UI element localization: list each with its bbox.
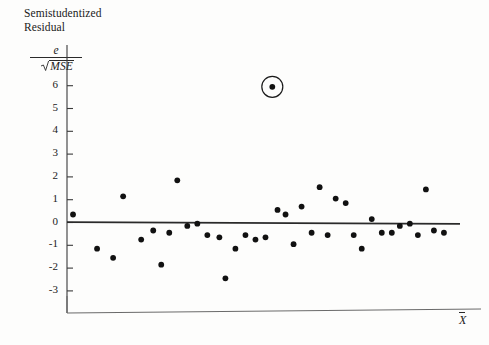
scatter-point <box>351 232 357 238</box>
scatter-point <box>317 184 323 190</box>
y-tick-label: 2 <box>36 169 58 181</box>
scatter-point <box>299 204 305 210</box>
scatter-point <box>379 230 385 236</box>
y-tick-label: 0 <box>36 215 58 227</box>
scatter-point <box>423 187 429 193</box>
x-axis-label-group: X <box>459 313 466 328</box>
scatter-point <box>369 216 375 222</box>
x-axis-line <box>67 309 481 313</box>
scatter-point <box>283 212 289 218</box>
scatter-point <box>397 223 403 229</box>
scatter-point <box>216 234 222 240</box>
y-tick-label: 4 <box>36 123 58 135</box>
scatter-point <box>194 221 200 227</box>
scatter-point <box>431 228 437 234</box>
y-tick-label: 5 <box>36 101 58 113</box>
x-label-overbar <box>459 312 465 313</box>
x-axis-label: X <box>459 313 466 327</box>
scatter-point <box>415 232 421 238</box>
scatter-point <box>253 237 259 243</box>
scatter-point <box>309 230 315 236</box>
plot-canvas <box>0 0 489 345</box>
scatter-point <box>389 230 395 236</box>
y-tick-label: -1 <box>36 237 58 249</box>
scatter-point <box>233 246 239 252</box>
scatter-point <box>166 230 172 236</box>
scatter-point <box>222 275 228 281</box>
scatter-point <box>291 241 297 247</box>
scatter-point <box>138 237 144 243</box>
scatter-point <box>174 177 180 183</box>
scatter-point <box>333 196 339 202</box>
scatter-point <box>110 255 116 261</box>
scatter-point <box>243 232 249 238</box>
scatter-point <box>359 246 365 252</box>
scatter-points <box>70 84 447 281</box>
residual-plot-figure: Semistudentized Residual e MSE <box>0 0 489 345</box>
scatter-point <box>204 232 210 238</box>
y-tick-label: -2 <box>36 260 58 272</box>
scatter-point <box>158 262 164 268</box>
scatter-point <box>407 221 413 227</box>
y-tick-marks <box>67 86 73 291</box>
scatter-point <box>150 228 156 234</box>
scatter-point <box>184 223 190 229</box>
scatter-point <box>325 232 331 238</box>
scatter-point <box>343 200 349 206</box>
scatter-point <box>263 234 269 240</box>
y-tick-label: 6 <box>36 78 58 90</box>
scatter-point <box>70 212 76 218</box>
scatter-point <box>441 230 447 236</box>
y-tick-label: 1 <box>36 192 58 204</box>
scatter-point <box>120 193 126 199</box>
y-tick-label: -3 <box>36 283 58 295</box>
scatter-point <box>94 246 100 252</box>
y-tick-label: 3 <box>36 146 58 158</box>
scatter-point <box>275 207 281 213</box>
outlier-point <box>269 84 275 90</box>
